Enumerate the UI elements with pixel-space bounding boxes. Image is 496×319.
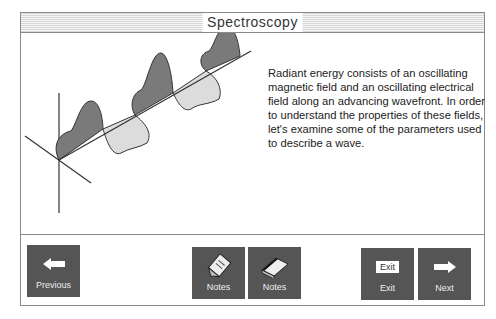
next-label: Next (418, 283, 471, 293)
arrow-right-icon (434, 261, 456, 273)
lesson-window: Spectroscopy Radiant energy consists of … (20, 12, 485, 306)
next-button[interactable]: Next (418, 248, 471, 300)
exit-button[interactable]: Exit Exit (361, 248, 414, 300)
notes-label-1: Notes (192, 282, 245, 292)
arrow-left-icon (43, 258, 65, 270)
previous-button[interactable]: Previous (27, 245, 80, 297)
description-text: Radiant energy consists of an oscillatin… (268, 66, 488, 150)
electromagnetic-wave-illustration (21, 33, 261, 233)
notes-button-2[interactable]: Notes (248, 247, 301, 299)
exit-label: Exit (361, 283, 414, 293)
navigation-toolbar: Previous Notes Notes Exit Exit Next (21, 234, 484, 307)
page-title: Spectroscopy (202, 13, 303, 32)
title-bar: Spectroscopy (21, 13, 484, 33)
previous-label: Previous (27, 280, 80, 290)
notes-label-2: Notes (248, 282, 301, 292)
exit-sign-icon: Exit (376, 261, 399, 273)
content-area: Radiant energy consists of an oscillatin… (21, 33, 484, 233)
notebook-icon (260, 254, 290, 278)
notes-button-1[interactable]: Notes (192, 247, 245, 299)
notepad-pencil-icon (206, 253, 232, 279)
